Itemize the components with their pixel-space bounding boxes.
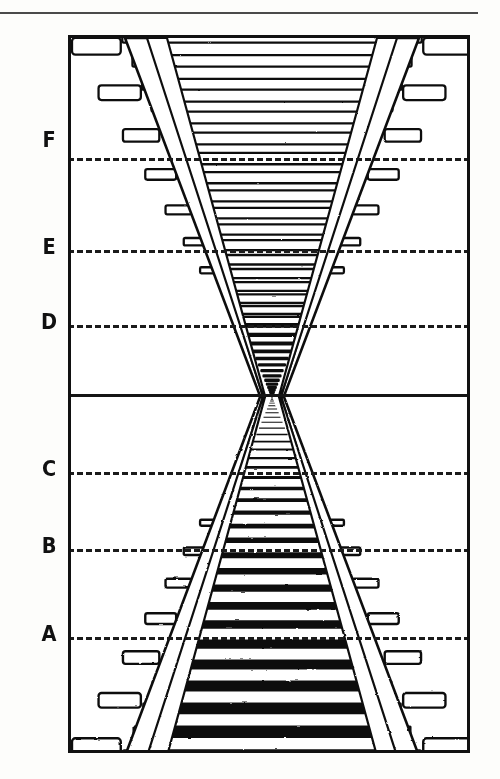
figure-stage: F E D C B A xyxy=(0,0,500,779)
horizon-line xyxy=(71,394,467,397)
depth-line-C xyxy=(68,472,470,475)
depth-line-D xyxy=(68,325,470,328)
depth-line-E xyxy=(68,250,470,253)
upper-track-group xyxy=(72,38,470,396)
depth-label-F: F xyxy=(37,130,61,151)
depth-label-D: D xyxy=(37,312,61,333)
page-top-rule xyxy=(0,12,478,14)
figure-frame xyxy=(68,35,470,753)
lower-track-group xyxy=(72,397,470,753)
depth-line-A xyxy=(68,637,470,640)
depth-label-A: A xyxy=(37,624,61,645)
depth-line-B xyxy=(68,549,470,552)
depth-label-C: C xyxy=(37,459,61,480)
depth-label-E: E xyxy=(37,237,61,258)
depth-label-B: B xyxy=(37,536,61,557)
depth-line-F xyxy=(68,158,470,161)
